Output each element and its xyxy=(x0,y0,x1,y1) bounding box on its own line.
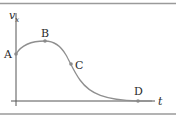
point-a-label: A xyxy=(4,49,12,60)
velocity-time-diagram: vx t A B C D xyxy=(0,0,176,117)
y-axis-label: vx xyxy=(9,10,19,21)
y-axis-label-subscript: x xyxy=(15,16,19,24)
point-b-label: B xyxy=(41,28,49,39)
point-d-label: D xyxy=(134,86,143,97)
point-d-marker xyxy=(136,99,140,103)
point-c-marker xyxy=(69,62,73,66)
x-axis-label: t xyxy=(158,96,162,107)
point-a-marker xyxy=(14,52,18,56)
velocity-curve xyxy=(16,41,152,101)
diagram-canvas xyxy=(0,0,176,117)
point-c-label: C xyxy=(75,60,83,71)
